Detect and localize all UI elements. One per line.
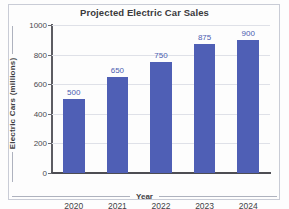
x-tick-label-2024: 2024 xyxy=(239,201,258,209)
y-tick-mark xyxy=(48,25,52,26)
y-tick-label: 400 xyxy=(34,109,47,118)
bar-2022: 750 xyxy=(150,62,172,173)
bar-value-label: 500 xyxy=(67,88,80,97)
bar-value-label: 750 xyxy=(154,51,167,60)
y-tick-label: 0 xyxy=(43,169,47,178)
x-tick-label-2020: 2020 xyxy=(64,201,83,209)
y-tick-mark xyxy=(48,84,52,85)
y-tick-mark xyxy=(48,114,52,115)
x-axis-title-text: Year xyxy=(136,192,153,201)
y-tick-mark xyxy=(48,143,52,144)
y-tick-label: 1000 xyxy=(29,21,47,30)
plot-area: 0200400600800100050020206502021750202287… xyxy=(52,25,270,173)
x-axis-title: Year xyxy=(12,190,277,202)
y-tick-label: 600 xyxy=(34,80,47,89)
bar-2023: 875 xyxy=(194,44,216,174)
bar-2024: 900 xyxy=(237,40,259,173)
bar-value-label: 875 xyxy=(198,33,211,42)
y-axis-title: Electric Cars (millions) xyxy=(6,24,20,182)
y-axis-label-rule-bottom xyxy=(12,152,13,182)
y-tick-mark xyxy=(48,173,52,174)
chart-figure: Projected Electric Car Sales Electric Ca… xyxy=(0,0,289,209)
chart-title: Projected Electric Car Sales xyxy=(0,7,289,18)
x-tick-label-2023: 2023 xyxy=(195,201,214,209)
bar-2021: 650 xyxy=(107,77,129,173)
y-tick-label: 800 xyxy=(34,50,47,59)
bar-value-label: 650 xyxy=(111,66,124,75)
bar-value-label: 900 xyxy=(242,29,255,38)
gridline xyxy=(52,25,270,26)
bar-2020: 500 xyxy=(63,99,85,173)
y-tick-label: 200 xyxy=(34,139,47,148)
x-tick-label-2022: 2022 xyxy=(152,201,171,209)
x-tick-label-2021: 2021 xyxy=(108,201,127,209)
y-tick-mark xyxy=(48,55,52,56)
y-axis-title-text: Electric Cars (millions) xyxy=(9,57,18,149)
x-axis-title-rule-left xyxy=(12,196,130,197)
x-axis-title-rule-right xyxy=(159,196,277,197)
